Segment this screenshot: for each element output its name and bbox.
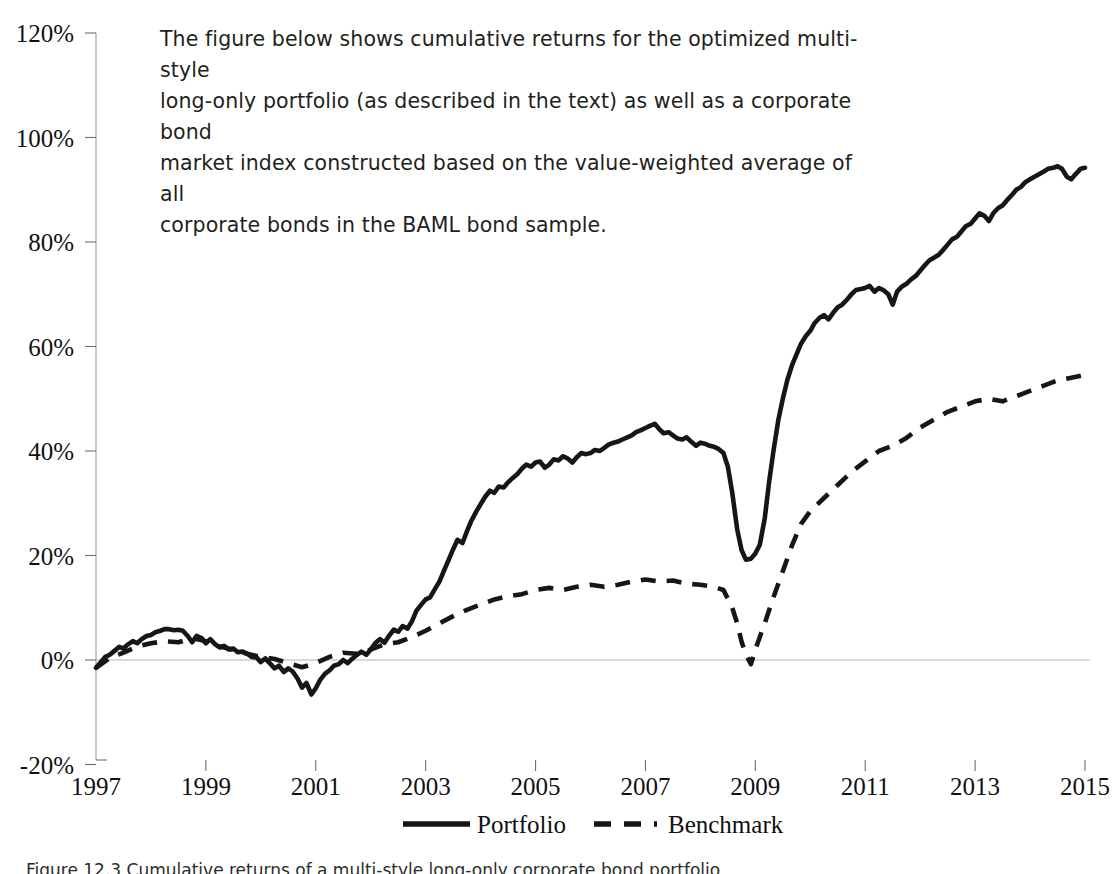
x-tick-label: 2011 — [841, 773, 890, 800]
data-series-group — [96, 166, 1085, 694]
cumulative-returns-chart: 120%100%80%60%40%20%0%-20% 1997199920012… — [0, 0, 1116, 874]
x-tick-label: 1999 — [181, 773, 231, 800]
y-tick-label: -20% — [20, 752, 74, 779]
y-tick-label: 60% — [28, 334, 74, 361]
x-tick-label: 1997 — [71, 773, 121, 800]
x-tick-marks — [96, 760, 1085, 771]
x-tick-label: 2003 — [401, 773, 451, 800]
series-line-portfolio — [96, 166, 1085, 694]
x-tick-label: 2009 — [730, 773, 780, 800]
y-tick-label: 100% — [16, 125, 74, 152]
x-axis: 1997199920012003200520072009201120132015 — [71, 760, 1110, 800]
x-tick-label: 2007 — [620, 773, 670, 800]
y-tick-marks — [85, 33, 96, 765]
y-tick-label: 120% — [16, 20, 74, 47]
series-line-benchmark — [96, 375, 1085, 668]
x-tick-label: 2005 — [511, 773, 561, 800]
y-tick-label: 20% — [28, 543, 74, 570]
x-tick-label: 2001 — [291, 773, 341, 800]
figure-number-caption: Figure 12.3 Cumulative returns of a mult… — [26, 861, 926, 874]
legend-label-portfolio: Portfolio — [477, 811, 566, 838]
figure-root: The figure below shows cumulative return… — [0, 0, 1116, 874]
legend-label-benchmark: Benchmark — [668, 811, 784, 838]
y-axis: 120%100%80%60%40%20%0%-20% — [16, 20, 96, 779]
chart-legend: Portfolio Benchmark — [403, 811, 784, 838]
x-tick-labels: 1997199920012003200520072009201120132015 — [71, 773, 1110, 800]
x-tick-label: 2013 — [950, 773, 1000, 800]
x-tick-label: 2015 — [1060, 773, 1110, 800]
y-tick-label: 80% — [28, 229, 74, 256]
y-tick-labels: 120%100%80%60%40%20%0%-20% — [16, 20, 74, 779]
y-tick-label: 0% — [41, 647, 74, 674]
y-tick-label: 40% — [28, 438, 74, 465]
